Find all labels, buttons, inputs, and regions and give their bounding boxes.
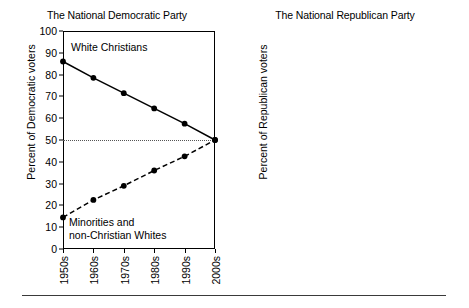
x-tick-label: 1980s (149, 256, 161, 285)
annotation-text: White Christians (71, 41, 147, 53)
annotation-text-line2: non-Christian Whites (69, 229, 166, 242)
data-point-marker (121, 183, 127, 189)
y-axis-title-republican: Percent of Republican voters (257, 22, 269, 202)
x-tick-label: 1960s (88, 256, 100, 285)
x-tick-label: 1950s (58, 256, 70, 285)
x-tick-label: 2000s (210, 256, 222, 285)
y-tick-label: 0 (51, 243, 57, 255)
data-point-marker (91, 75, 97, 81)
x-tick-mark (63, 249, 64, 253)
x-tick-mark (154, 249, 155, 253)
data-point-marker (121, 90, 127, 96)
chart-title-republican: The National Republican Party (228, 9, 462, 21)
annotation-minorities-democratic: Minorities and non-Christian Whites (69, 216, 166, 242)
data-point-marker (151, 168, 157, 174)
x-tick-mark (185, 249, 186, 253)
y-tick-label: 80 (45, 69, 57, 81)
y-tick-label: 100 (39, 25, 57, 37)
y-tick-label: 10 (45, 221, 57, 233)
y-tick-label: 30 (45, 178, 57, 190)
series-line-white-christians (63, 62, 215, 140)
y-tick-label: 20 (45, 199, 57, 211)
footer-rule (22, 295, 446, 296)
y-tick-label: 50 (45, 134, 57, 146)
annotation-white-christians-democratic: White Christians (71, 41, 147, 54)
x-tick-label: 1970s (119, 256, 131, 285)
x-tick-label: 1990s (180, 256, 192, 285)
chart-panel-democratic: The National Democratic Party Percent of… (0, 0, 234, 290)
chart-panel-republican: The National Republican Party Percent of… (228, 0, 462, 290)
data-point-marker (151, 105, 157, 111)
y-tick-label: 90 (45, 47, 57, 59)
chart-title-democratic: The National Democratic Party (0, 9, 234, 21)
data-point-marker (60, 214, 66, 220)
x-tick-mark (124, 249, 125, 253)
y-tick-label: 40 (45, 156, 57, 168)
data-point-marker (182, 153, 188, 159)
y-tick-label: 70 (45, 90, 57, 102)
x-tick-mark (93, 249, 94, 253)
data-point-marker (182, 121, 188, 127)
data-point-marker (212, 137, 218, 143)
data-point-marker (60, 59, 66, 65)
data-point-marker (91, 197, 97, 203)
plot-area-democratic: 0102030405060708090100 1950s1960s1970s19… (63, 31, 215, 249)
annotation-text-line1: Minorities and (69, 216, 166, 229)
x-tick-mark (215, 249, 216, 253)
series-line-minorities (63, 140, 215, 217)
y-tick-label: 60 (45, 112, 57, 124)
y-axis-title-democratic: Percent of Democratic voters (25, 22, 37, 202)
